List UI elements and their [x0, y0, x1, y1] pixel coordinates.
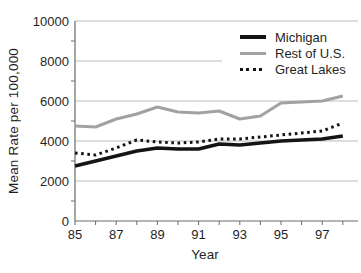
legend-item-rest-of-us: Rest of U.S. [240, 45, 361, 61]
legend-label-great-lakes: Great Lakes [275, 62, 346, 77]
x-tick-label-97: 97 [315, 227, 329, 242]
legend-item-great-lakes: Great Lakes [240, 61, 361, 77]
y-tick-label-10000: 10000 [33, 14, 69, 29]
great-lakes-line-swatch [240, 68, 266, 71]
x-tick-label-95: 95 [274, 227, 288, 242]
legend-item-michigan: Michigan [240, 29, 361, 45]
y-tick-label-4000: 4000 [40, 134, 69, 149]
x-axis-title: Year [70, 247, 340, 262]
y-tick-label-2000: 2000 [40, 174, 69, 189]
y-tick-label-8000: 8000 [40, 54, 69, 69]
legend-label-michigan: Michigan [275, 30, 327, 45]
y-tick-label-6000: 6000 [40, 94, 69, 109]
x-tick-label-93: 93 [233, 227, 247, 242]
x-tick-label-85: 85 [68, 227, 82, 242]
legend-label-rest-of-us: Rest of U.S. [275, 46, 345, 61]
x-tick-label-91: 91 [191, 227, 205, 242]
legend: Michigan Rest of U.S. Great Lakes [222, 26, 361, 80]
y-axis-title: Mean Rate per 100,000 [3, 21, 23, 221]
x-tick-label-89: 89 [150, 227, 164, 242]
x-tick-label-87: 87 [109, 227, 123, 242]
rest-of-us-line-swatch [240, 52, 266, 55]
michigan-line-swatch [240, 35, 266, 39]
line-chart-figure: 020004000600080001000085878991939597 Mea… [0, 0, 361, 273]
